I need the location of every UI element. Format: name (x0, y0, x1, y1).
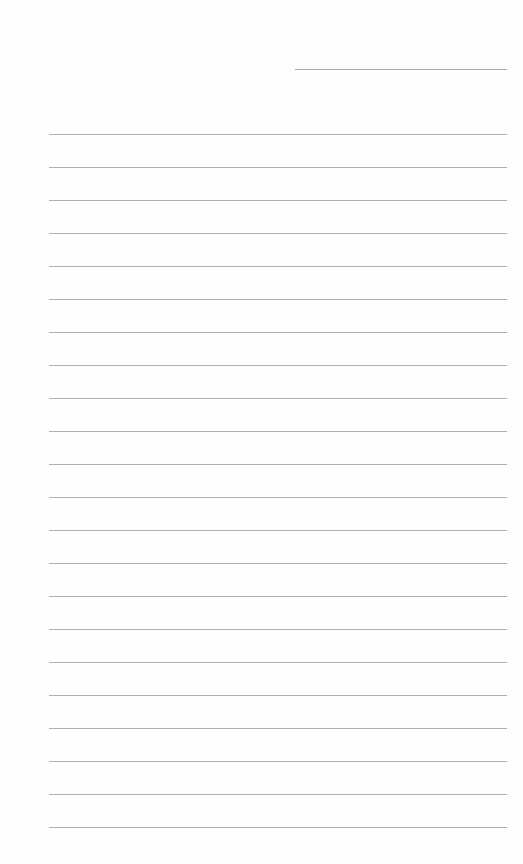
ruled-line (49, 761, 507, 762)
ruled-line (49, 497, 507, 498)
ruled-line (49, 827, 507, 828)
ruled-line (49, 629, 507, 630)
ruled-line (49, 794, 507, 795)
header-line (295, 69, 507, 70)
lined-paper-page (0, 0, 523, 864)
ruled-line (49, 365, 507, 366)
ruled-line (49, 299, 507, 300)
ruled-line (49, 728, 507, 729)
ruled-line (49, 464, 507, 465)
ruled-line (49, 233, 507, 234)
ruled-line (49, 596, 507, 597)
ruled-line (49, 167, 507, 168)
ruled-line (49, 200, 507, 201)
ruled-line (49, 563, 507, 564)
ruled-line (49, 662, 507, 663)
ruled-line (49, 431, 507, 432)
ruled-line (49, 134, 507, 135)
ruled-line (49, 695, 507, 696)
ruled-line (49, 530, 507, 531)
ruled-line (49, 266, 507, 267)
ruled-line (49, 332, 507, 333)
ruled-line (49, 398, 507, 399)
